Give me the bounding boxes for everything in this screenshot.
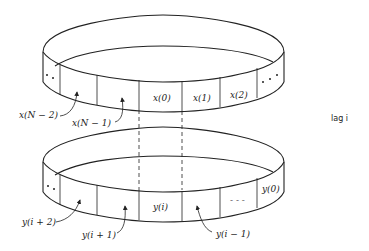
label-yim1: y(i − 1) <box>215 229 250 239</box>
label-yi1: y(i + 1) <box>81 230 116 240</box>
circular-buffer-diagram: x(0) x(1) x(2) x(N − 2) x(N − 1) lag i y… <box>0 0 369 251</box>
top-ring: x(0) x(1) x(2) x(N − 2) x(N − 1) <box>19 15 284 128</box>
arrow-xN1 <box>115 98 123 122</box>
cell-dashes: - - - <box>230 195 245 205</box>
cell-x1: x(1) <box>193 93 211 103</box>
top-ring-inner-rim <box>55 46 273 66</box>
cell-yi: y(i) <box>152 202 168 212</box>
label-xN1: x(N − 1) <box>72 118 111 128</box>
cell-x0: x(0) <box>153 93 171 103</box>
bottom-ring: y(i) - - - y(0) y(i + 2) y(i + 1) y(i − … <box>21 127 284 240</box>
lag-label: lag i <box>331 114 348 123</box>
cell-y0: y(0) <box>261 184 280 194</box>
label-yi2: y(i + 2) <box>21 217 56 227</box>
cell-x2: x(2) <box>230 90 248 100</box>
label-xN2: x(N − 2) <box>19 110 58 120</box>
